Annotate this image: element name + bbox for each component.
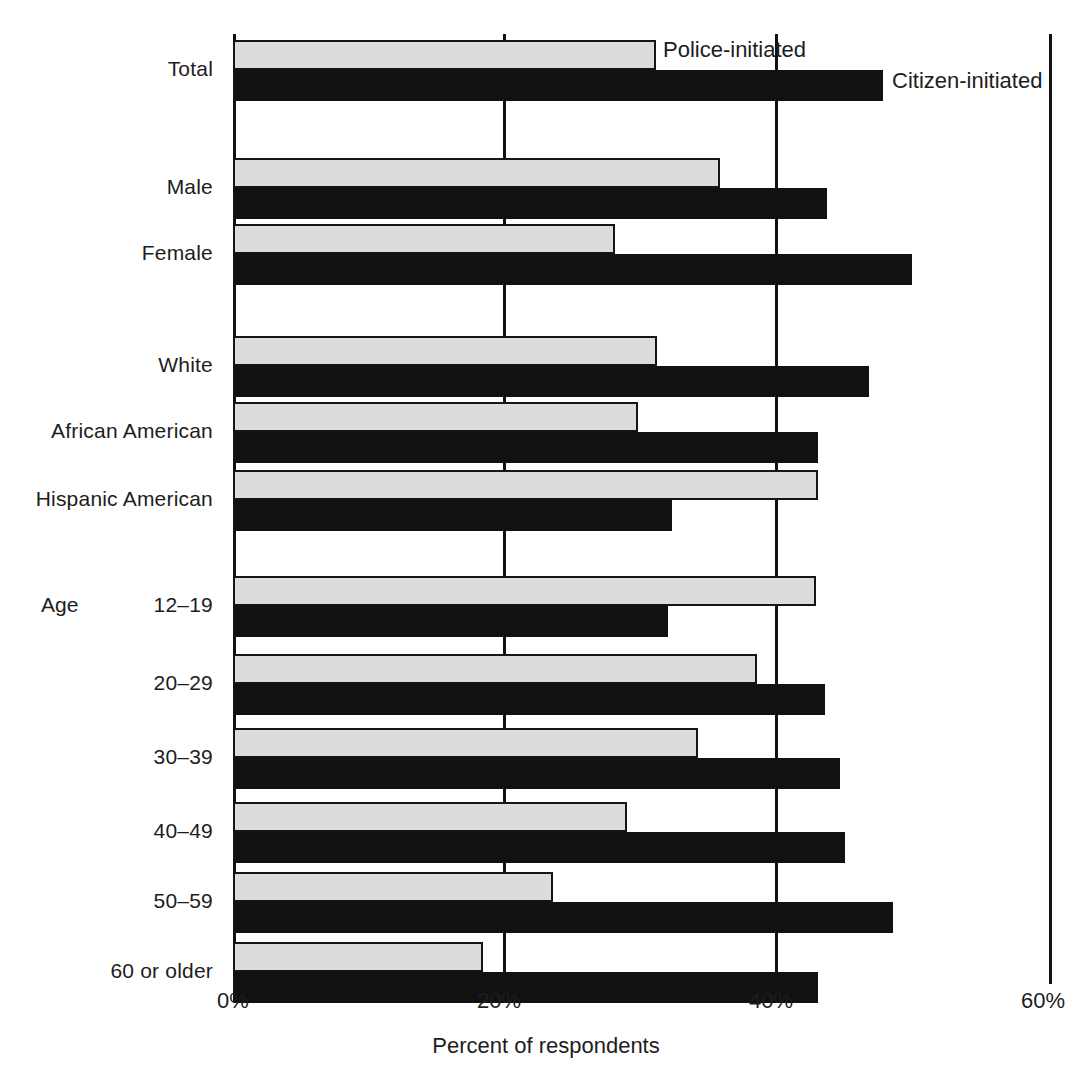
bar-citizen-initiated	[233, 500, 672, 531]
bar-group	[233, 576, 1052, 637]
bar-group	[233, 942, 1052, 1003]
bar-group	[233, 802, 1052, 863]
plot-area	[233, 34, 1052, 984]
bar-police-initiated	[233, 402, 638, 432]
bar-police-initiated	[233, 336, 657, 366]
bar-group	[233, 654, 1052, 715]
legend-label-police-initiated: Police-initiated	[663, 37, 806, 63]
x-tick-label-60: 60%	[1021, 988, 1065, 1014]
bar-group	[233, 336, 1052, 397]
bar-police-initiated	[233, 470, 818, 500]
bar-group	[233, 872, 1052, 933]
category-label: 50–59	[0, 889, 213, 913]
category-label: African American	[0, 419, 213, 443]
category-label-column: Age TotalMaleFemaleWhiteAfrican American…	[0, 34, 213, 984]
bar-group	[233, 470, 1052, 531]
bar-police-initiated	[233, 654, 757, 684]
bar-police-initiated	[233, 872, 553, 902]
bar-group	[233, 728, 1052, 789]
bar-citizen-initiated	[233, 366, 869, 397]
category-label: Male	[0, 175, 213, 199]
bar-chart: Age TotalMaleFemaleWhiteAfrican American…	[0, 0, 1092, 1081]
bar-police-initiated	[233, 224, 615, 254]
x-tick-label-0: 0%	[217, 988, 249, 1014]
category-label: White	[0, 353, 213, 377]
bar-police-initiated	[233, 576, 816, 606]
bar-citizen-initiated	[233, 902, 893, 933]
bar-citizen-initiated	[233, 684, 825, 715]
category-label: 12–19	[0, 593, 213, 617]
bar-police-initiated	[233, 942, 483, 972]
x-tick-label-40: 40%	[749, 988, 793, 1014]
bar-citizen-initiated	[233, 606, 668, 637]
bar-citizen-initiated	[233, 254, 912, 285]
bar-citizen-initiated	[233, 972, 818, 1003]
bar-citizen-initiated	[233, 188, 827, 219]
category-label: Total	[0, 57, 213, 81]
category-label: Hispanic American	[0, 487, 213, 511]
category-label: 30–39	[0, 745, 213, 769]
x-axis-title: Percent of respondents	[0, 1033, 1092, 1059]
category-label: 20–29	[0, 671, 213, 695]
bar-group	[233, 402, 1052, 463]
x-tick-label-20: 20%	[477, 988, 521, 1014]
bar-citizen-initiated	[233, 832, 845, 863]
bar-citizen-initiated	[233, 758, 840, 789]
category-label: Female	[0, 241, 213, 265]
bar-citizen-initiated	[233, 70, 883, 101]
bar-group	[233, 158, 1052, 219]
legend-label-citizen-initiated: Citizen-initiated	[892, 68, 1042, 94]
category-label: 60 or older	[0, 959, 213, 983]
bar-police-initiated	[233, 40, 656, 70]
bar-citizen-initiated	[233, 432, 818, 463]
category-label: 40–49	[0, 819, 213, 843]
bar-police-initiated	[233, 158, 720, 188]
bar-police-initiated	[233, 802, 627, 832]
bar-police-initiated	[233, 728, 698, 758]
bar-group	[233, 224, 1052, 285]
